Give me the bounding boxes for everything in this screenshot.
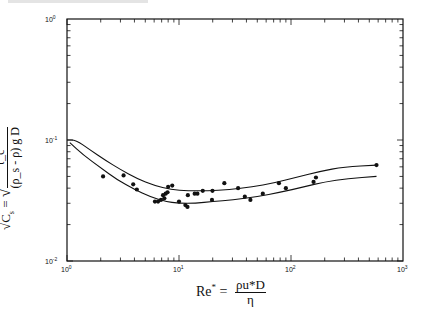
x-tick-label: 102 [285,264,296,273]
data-point [311,180,315,184]
y-label-lhs: √C [0,214,13,230]
axis-ticks [67,19,403,261]
data-point [121,173,125,177]
x-tick-label: 101 [173,264,184,273]
x-label-denominator: η [235,293,266,307]
data-point [243,195,247,199]
plot-border [67,19,403,261]
data-point [165,190,169,194]
x-label-eq: = [220,284,228,299]
data-point [195,192,199,196]
data-point [135,187,139,191]
data-point [210,198,214,202]
plot-frame [67,19,403,261]
x-tick-label: 100 [61,264,72,273]
y-label-sub: s [7,211,16,214]
envelope-curves [67,140,377,203]
x-tick-label: 103 [397,264,408,273]
x-label-lhs: Re [196,284,212,299]
data-point [162,196,166,200]
data-point [101,174,105,178]
data-point [186,193,190,197]
data-point [236,186,240,190]
data-point [166,185,170,189]
x-label-sup: * [212,282,217,292]
x-axis-label: Re* = ρu*D η [196,278,266,307]
y-tick-label: 100 [45,14,56,23]
data-point [374,163,378,167]
y-tick-label: 10-1 [45,135,57,144]
data-point [261,192,265,196]
data-points [101,163,379,209]
data-point [170,183,174,187]
envelope-curve [67,140,377,191]
axis-tick-labels: 10010110210310-210-1100 [45,14,408,273]
data-point [201,189,205,193]
envelope-curve [70,143,377,204]
data-point [222,181,226,185]
y-tick-label: 10-2 [45,256,57,265]
y-label-denominator: (ρ_s - ρ) g D [8,127,22,188]
x-label-numerator: ρu*D [235,278,266,293]
data-point [314,175,318,179]
data-point [284,186,288,190]
data-point [210,189,214,193]
y-label-numerator: τ_c [0,127,8,188]
data-point [131,182,135,186]
chart-canvas: 10010110210310-210-1100 [0,0,421,318]
y-label-eq: = [0,200,13,207]
data-point [277,181,281,185]
data-point [248,198,252,202]
y-axis-label: √Cs = √ τ_c (ρ_s - ρ) g D [0,80,32,230]
data-point [185,205,189,209]
data-point [177,199,181,203]
